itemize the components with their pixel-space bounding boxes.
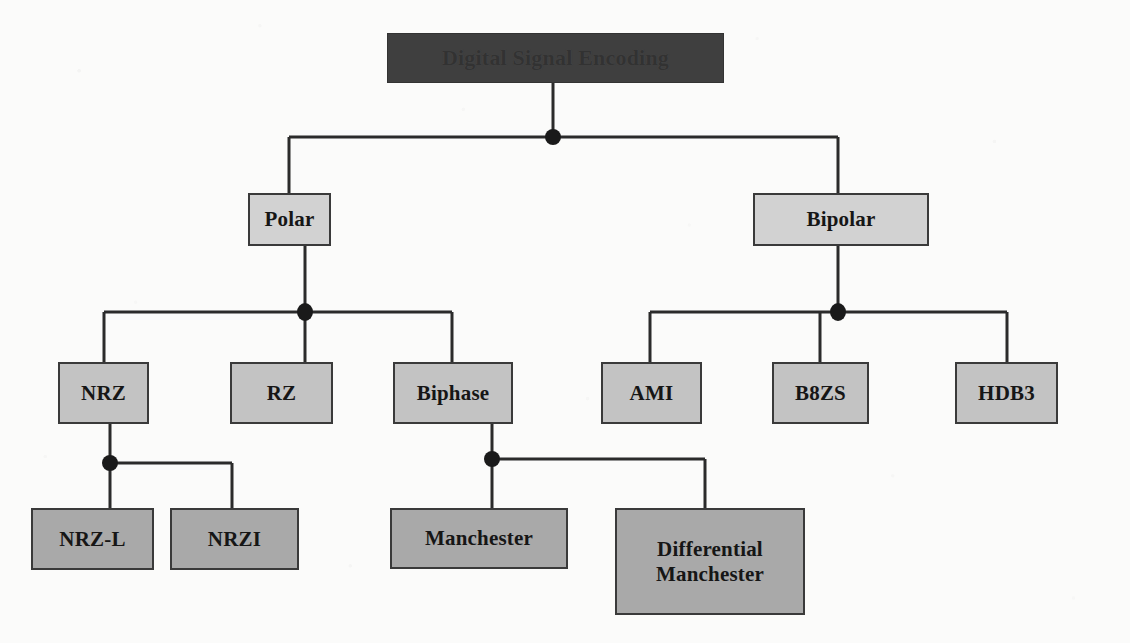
node-root[interactable]: Digital Signal Encoding [387, 33, 724, 83]
node-b8zs-label: B8ZS [795, 381, 846, 406]
node-nrz[interactable]: NRZ [58, 362, 149, 424]
junction-dot-biphase [484, 451, 500, 467]
node-hdb3-label: HDB3 [978, 381, 1035, 406]
node-biphase-label: Biphase [417, 381, 490, 406]
diagram-canvas: Digital Signal Encoding Polar Bipolar NR… [0, 0, 1130, 643]
node-bipolar-label: Bipolar [806, 207, 875, 232]
node-rz-label: RZ [267, 381, 297, 406]
node-biphase[interactable]: Biphase [393, 362, 513, 424]
node-manchester-label: Manchester [425, 526, 533, 551]
node-b8zs[interactable]: B8ZS [772, 362, 869, 424]
node-rz[interactable]: RZ [230, 362, 333, 424]
node-polar-label: Polar [265, 207, 315, 232]
node-differential-manchester-label-line1: Differential [657, 537, 763, 562]
junction-dot-polar [297, 303, 313, 321]
node-nrzi-label: NRZI [208, 527, 261, 552]
node-nrz-l-label: NRZ-L [59, 527, 125, 552]
junction-dot-bipolar [830, 303, 846, 321]
junction-dot-nrz [102, 455, 118, 471]
node-differential-manchester-label-line2: Manchester [656, 562, 764, 587]
junction-dot-root [545, 129, 561, 145]
node-nrz-label: NRZ [81, 381, 126, 406]
node-nrzi[interactable]: NRZI [170, 508, 299, 570]
node-polar[interactable]: Polar [248, 193, 331, 246]
node-nrz-l[interactable]: NRZ-L [31, 508, 154, 570]
node-differential-manchester[interactable]: Differential Manchester [615, 508, 805, 615]
node-ami[interactable]: AMI [601, 362, 702, 424]
node-bipolar[interactable]: Bipolar [753, 193, 929, 246]
node-manchester[interactable]: Manchester [390, 508, 568, 569]
node-ami-label: AMI [630, 381, 674, 406]
node-root-label: Digital Signal Encoding [442, 45, 669, 71]
node-hdb3[interactable]: HDB3 [955, 362, 1058, 424]
